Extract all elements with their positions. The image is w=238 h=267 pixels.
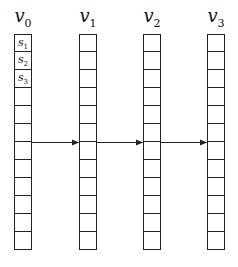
cell <box>14 88 32 106</box>
cell <box>207 160 225 178</box>
cell <box>207 142 225 160</box>
cell <box>143 34 161 52</box>
cell <box>79 214 97 232</box>
cell <box>143 70 161 88</box>
cell: s1 <box>14 34 32 52</box>
cell <box>79 88 97 106</box>
cell <box>143 160 161 178</box>
cell-label-s3: s3 <box>15 70 31 87</box>
cell <box>14 106 32 124</box>
cell <box>14 214 32 232</box>
cell <box>79 52 97 70</box>
column-v0: s1 s2 s3 <box>14 34 32 250</box>
cell <box>143 196 161 214</box>
cell <box>143 106 161 124</box>
cell <box>79 196 97 214</box>
cell <box>207 70 225 88</box>
column-v1 <box>79 34 97 250</box>
column-v2 <box>143 34 161 250</box>
cell <box>143 178 161 196</box>
cell <box>207 178 225 196</box>
cell <box>207 196 225 214</box>
column-v3 <box>207 34 225 250</box>
cell <box>14 160 32 178</box>
cell <box>14 232 32 250</box>
cell: s3 <box>14 70 32 88</box>
cell <box>143 232 161 250</box>
cell <box>14 124 32 142</box>
cell <box>79 232 97 250</box>
cell <box>143 88 161 106</box>
cell: s2 <box>14 52 32 70</box>
cell <box>79 106 97 124</box>
cell <box>207 52 225 70</box>
cell <box>207 214 225 232</box>
cell <box>14 196 32 214</box>
cell <box>207 124 225 142</box>
cell <box>143 214 161 232</box>
cell <box>79 70 97 88</box>
cell <box>14 142 32 160</box>
cell <box>79 34 97 52</box>
cell-label-s1: s1 <box>15 35 31 51</box>
cell <box>207 106 225 124</box>
cell <box>143 52 161 70</box>
cell <box>207 232 225 250</box>
cell <box>79 160 97 178</box>
cell <box>79 124 97 142</box>
cell <box>79 178 97 196</box>
arrow-layer <box>0 0 238 267</box>
cell <box>14 178 32 196</box>
cell <box>207 34 225 52</box>
cell <box>79 142 97 160</box>
cell-label-s2: s2 <box>15 52 31 69</box>
cell <box>143 142 161 160</box>
cell <box>207 88 225 106</box>
cell <box>143 124 161 142</box>
